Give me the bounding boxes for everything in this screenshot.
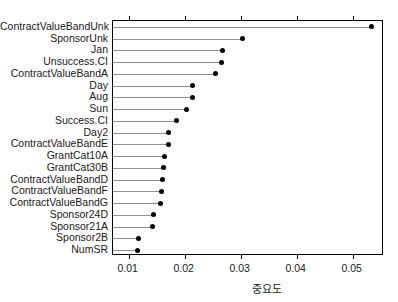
- x-axis-tick-top: [185, 16, 186, 21]
- y-axis-label: GrantCat30B: [0, 161, 108, 172]
- y-axis-label: ContractValueBandA: [0, 67, 108, 78]
- x-axis-tick-bottom: [129, 254, 130, 259]
- data-stem: [113, 250, 138, 251]
- data-stem: [113, 191, 162, 192]
- y-axis-label: NumSR: [0, 244, 108, 255]
- data-point: [220, 48, 225, 53]
- data-point: [190, 83, 195, 88]
- x-axis-tick-label: 0.05: [341, 262, 361, 274]
- y-axis-label: GrantCat10A: [0, 150, 108, 161]
- data-point: [151, 212, 156, 217]
- data-stem: [113, 97, 193, 98]
- x-axis-tick-label: 0.04: [285, 262, 305, 274]
- x-axis-tick-top: [129, 16, 130, 21]
- y-axis-label: ContractValueBandG: [0, 197, 108, 208]
- data-stem: [113, 168, 164, 169]
- x-axis-title: 중요도: [0, 280, 398, 296]
- data-stem: [113, 238, 139, 239]
- y-axis-label: Sponsor2B: [0, 232, 108, 243]
- data-point: [136, 236, 141, 241]
- data-stem: [113, 27, 371, 28]
- x-axis-tick-bottom: [297, 254, 298, 259]
- y-axis-label: SponsorUnk: [0, 32, 108, 43]
- data-stem: [113, 180, 163, 181]
- data-point: [174, 118, 179, 123]
- y-axis-label: ContractValueBandE: [0, 138, 108, 149]
- data-stem: [113, 144, 168, 145]
- data-point: [161, 165, 166, 170]
- data-stem: [113, 133, 168, 134]
- data-point: [166, 130, 171, 135]
- y-axis-label: ContractValueBandUnk: [0, 20, 108, 31]
- data-point: [158, 201, 163, 206]
- plot-area: [112, 20, 383, 255]
- data-stem: [113, 156, 165, 157]
- y-axis-label: ContractValueBandD: [0, 173, 108, 184]
- data-point: [190, 95, 195, 100]
- data-point: [219, 60, 224, 65]
- data-stem: [113, 62, 222, 63]
- variable-importance-dotchart: ContractValueBandUnkSponsorUnkJanUnsucce…: [0, 0, 398, 302]
- y-axis-label: Jan: [0, 44, 108, 55]
- x-axis-tick-bottom: [185, 254, 186, 259]
- data-point: [150, 224, 155, 229]
- data-point: [184, 107, 189, 112]
- data-stem: [113, 74, 215, 75]
- data-stem: [113, 203, 161, 204]
- x-axis-tick-top: [297, 16, 298, 21]
- y-axis-label: Aug: [0, 91, 108, 102]
- y-axis-category-labels: ContractValueBandUnkSponsorUnkJanUnsucce…: [0, 20, 108, 255]
- x-axis-tick-label: 0.01: [117, 262, 137, 274]
- y-axis-label: Success.CI: [0, 114, 108, 125]
- data-stem: [113, 86, 193, 87]
- x-axis-tick-bottom: [353, 254, 354, 259]
- y-axis-label: Day: [0, 79, 108, 90]
- y-axis-label: Unsuccess.CI: [0, 56, 108, 67]
- data-point: [369, 24, 374, 29]
- data-point: [135, 248, 140, 253]
- data-stem: [113, 50, 223, 51]
- x-axis-tick-labels: 0.010.020.030.040.05: [0, 262, 398, 278]
- y-axis-label: Sponsor24D: [0, 208, 108, 219]
- y-axis-label: Sponsor21A: [0, 220, 108, 231]
- x-axis-tick-top: [353, 16, 354, 21]
- data-point: [162, 154, 167, 159]
- y-axis-label: Day2: [0, 126, 108, 137]
- x-axis-title-text: 중요도: [252, 280, 282, 296]
- x-axis-tick-top: [241, 16, 242, 21]
- x-axis-tick-label: 0.03: [229, 262, 249, 274]
- x-axis-tick-bottom: [241, 254, 242, 259]
- data-point: [160, 177, 165, 182]
- data-stem: [113, 121, 177, 122]
- data-stem: [113, 227, 153, 228]
- data-point: [213, 71, 218, 76]
- data-point: [240, 36, 245, 41]
- y-axis-label: ContractValueBandF: [0, 185, 108, 196]
- data-stem: [113, 39, 243, 40]
- x-axis-tick-label: 0.02: [173, 262, 193, 274]
- data-point: [166, 142, 171, 147]
- y-axis-label: Sun: [0, 103, 108, 114]
- data-stem: [113, 109, 187, 110]
- data-stem: [113, 215, 154, 216]
- data-point: [159, 189, 164, 194]
